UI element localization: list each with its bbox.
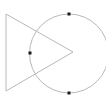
geometry-diagram — [0, 0, 106, 98]
diagram-background — [0, 0, 106, 98]
point-marker — [29, 52, 32, 55]
point-marker — [68, 92, 71, 95]
point-marker — [68, 13, 71, 16]
